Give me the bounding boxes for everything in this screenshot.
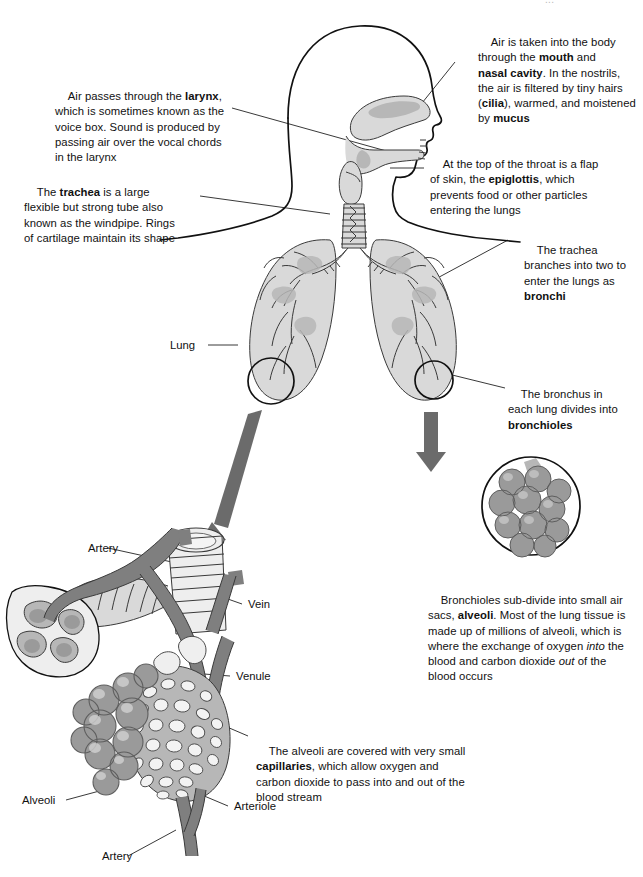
label-artery-bottom: Artery — [102, 849, 132, 863]
label-lung: Lung — [170, 338, 195, 352]
note-trachea: The trachea is a large flexible but stro… — [24, 170, 178, 261]
label-venule: Venule — [236, 669, 271, 683]
label-arteriole: Arteriole — [234, 799, 276, 813]
note-larynx: Air passes through the larynx, which is … — [55, 74, 233, 180]
note-epiglottis: At the top of the throat is a flap of sk… — [430, 142, 600, 233]
label-alveoli: Alveoli — [22, 793, 55, 807]
magnify-arrows — [198, 410, 446, 546]
respiratory-system-diagram: ... — [0, 0, 643, 877]
label-vein: Vein — [248, 597, 270, 611]
note-bronchioles: The bronchus in each lung divides into b… — [508, 372, 626, 448]
label-artery-top: Artery — [88, 541, 118, 555]
note-alveoli: Bronchioles sub-divide into small air sa… — [428, 578, 632, 700]
note-mouth-nasal-cavity: Air is taken into the body through the m… — [478, 20, 636, 142]
note-capillaries: The alveoli are covered with very small … — [256, 729, 466, 820]
lungs — [248, 240, 456, 404]
trachea — [341, 204, 367, 248]
alveoli-cluster-circle — [482, 457, 580, 557]
note-bronchi: The trachea branches into two to enter t… — [524, 228, 636, 319]
